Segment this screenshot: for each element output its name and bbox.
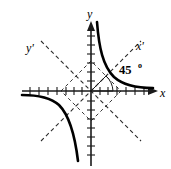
y-axis-label: y [86, 7, 93, 21]
angle-arc [106, 76, 113, 91]
hyperbola-branch-upper-right [97, 22, 153, 88]
angle-label-value: 45 [119, 63, 132, 77]
angle-arc-upper-ray [91, 75, 107, 91]
figure-canvas: y x x' y' 45 o [0, 0, 171, 169]
angle-label-degree-icon: o [138, 61, 142, 70]
x-prime-axis-label: x' [135, 39, 144, 53]
hyperbola-branch-lower-left [22, 95, 78, 161]
x-axis-label: x [159, 86, 166, 100]
y-prime-axis-label: y' [25, 41, 34, 55]
hyperbola-figure: y x x' y' 45 o [0, 0, 171, 169]
y-axis-arrowhead [87, 21, 95, 31]
